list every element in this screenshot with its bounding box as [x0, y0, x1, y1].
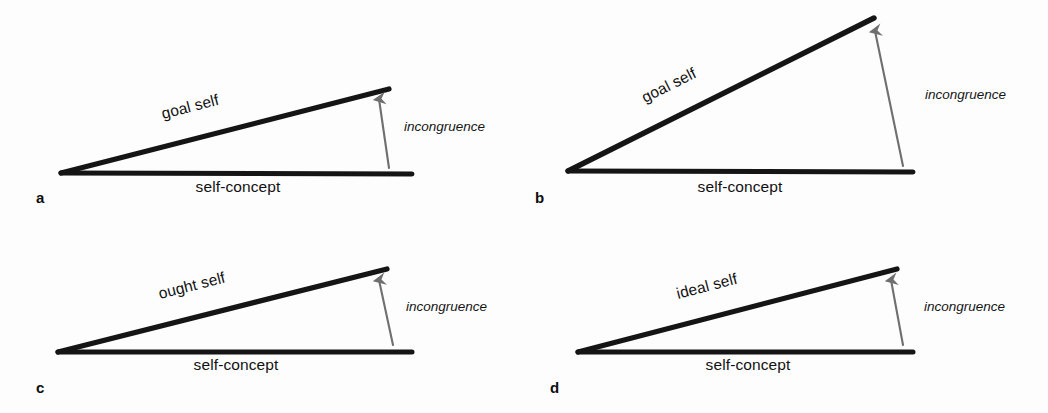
panel-b-hypotenuse-goal-self [568, 18, 874, 171]
panel-c-letter: c [36, 379, 44, 396]
panel-c: ought self self-concept incongruence c [36, 269, 487, 396]
panel-a-incongruence-arrow [379, 99, 389, 168]
figure-canvas: goal self self-concept incongruence a go… [0, 0, 1048, 413]
panel-c-base-label: self-concept [194, 356, 279, 373]
panel-d: ideal self self-concept incongruence d [550, 269, 1005, 396]
panel-d-incongruence-arrow [891, 280, 903, 345]
panel-a-letter: a [36, 189, 45, 206]
panel-b-base-label: self-concept [698, 178, 783, 195]
panel-a-hypotenuse-goal-self [61, 89, 389, 173]
self-discrepancy-figure: goal self self-concept incongruence a go… [0, 0, 1048, 413]
panel-b-letter: b [535, 189, 544, 206]
panel-a-base-label: self-concept [196, 178, 281, 195]
panel-c-incongruence-arrow [379, 280, 393, 345]
panel-b: goal self self-concept incongruence b [535, 18, 1006, 206]
panel-d-incongruence-label: incongruence [924, 299, 1005, 314]
panel-a-baseline-self-concept [61, 173, 412, 174]
panel-d-upper-label: ideal self [674, 270, 739, 302]
panel-a: goal self self-concept incongruence a [36, 89, 485, 206]
panel-d-letter: d [550, 379, 559, 396]
panel-b-upper-label: goal self [639, 64, 700, 106]
panel-a-incongruence-label: incongruence [404, 119, 485, 134]
panel-c-upper-label: ought self [157, 269, 228, 302]
panel-a-upper-label: goal self [160, 91, 222, 122]
panel-b-incongruence-label: incongruence [925, 87, 1006, 102]
panel-c-incongruence-label: incongruence [406, 299, 487, 314]
panel-d-base-label: self-concept [706, 356, 791, 373]
panel-b-baseline-self-concept [568, 171, 913, 172]
panel-b-incongruence-arrow [875, 31, 903, 166]
